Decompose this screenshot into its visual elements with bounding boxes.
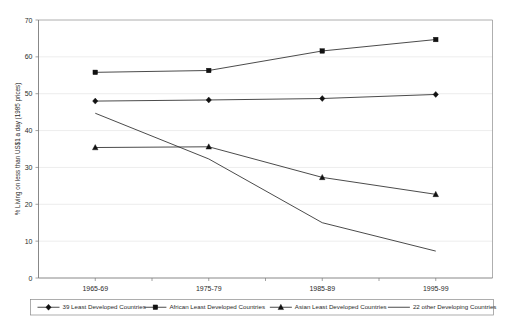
series-line [95, 94, 436, 101]
line-chart: 010203040506070 1965-691975-791985-89199… [0, 0, 507, 321]
data-point-marker [93, 70, 98, 75]
y-tick-label: 30 [25, 164, 33, 171]
x-tick-label: 1975-79 [196, 285, 222, 292]
series-line [95, 147, 436, 195]
series-3 [92, 144, 438, 197]
gridlines-group [39, 57, 493, 241]
legend-marker [153, 305, 158, 310]
y-axis-title: % Living on less than US$1 a day (1985 p… [14, 83, 22, 216]
chart-legend: 39 Least Developed CountriesAfrican Leas… [31, 300, 497, 316]
series-4 [95, 113, 436, 251]
y-tick-label: 0 [29, 275, 33, 282]
series-line [95, 113, 436, 251]
series-2 [93, 37, 438, 74]
chart-container: 010203040506070 1965-691975-791985-89199… [0, 0, 507, 321]
data-point-marker [320, 49, 325, 54]
x-tick-label: 1965-69 [82, 285, 108, 292]
x-tick-labels-group: 1965-691975-791985-891995-99 [82, 285, 448, 292]
legend-label: 39 Least Developed Countries [63, 303, 146, 310]
series-line [95, 40, 436, 73]
data-point-marker [320, 96, 325, 102]
x-tick-label: 1985-89 [309, 285, 335, 292]
x-tick-marks-group [95, 278, 436, 281]
plot-frame [39, 20, 493, 278]
legend-label: African Least Developed Countries [169, 303, 265, 310]
y-tick-label: 10 [25, 238, 33, 245]
legend-label: Asian Least Developed Countries [295, 303, 387, 310]
data-point-marker [433, 37, 438, 42]
y-tick-label: 70 [25, 17, 33, 24]
data-point-marker [93, 98, 98, 104]
y-tick-label: 40 [25, 127, 33, 134]
legend-label: 22 other Developing Countries [413, 303, 497, 310]
series-1 [93, 91, 439, 104]
series-group [92, 37, 438, 251]
y-tick-label: 20 [25, 201, 33, 208]
y-axis-title-text: % Living on less than US$1 a day (1985 p… [14, 83, 22, 216]
y-tick-labels-group: 010203040506070 [25, 17, 33, 282]
y-tick-label: 60 [25, 53, 33, 60]
x-tick-label: 1995-99 [423, 285, 449, 292]
data-point-marker [206, 97, 211, 103]
data-point-marker [206, 68, 211, 73]
plot-border [39, 20, 493, 278]
y-tick-label: 50 [25, 90, 33, 97]
data-point-marker [433, 91, 438, 97]
